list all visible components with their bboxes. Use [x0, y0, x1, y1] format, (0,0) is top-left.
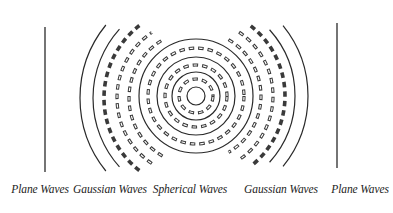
spherical-wavefront-dashed — [148, 48, 244, 144]
spherical-wavefront-solid — [139, 39, 253, 153]
label-plane-waves-left: Plane Waves — [11, 183, 69, 195]
spherical-wavefront-dashed — [165, 65, 227, 127]
label-gaussian-waves-left: Gaussian Waves — [73, 183, 147, 195]
wave-types-diagram — [0, 0, 393, 213]
spherical-wavefront-solid — [157, 57, 235, 135]
spherical-wavefront-dashed-inner — [148, 48, 244, 144]
spherical-wavefront-solid — [187, 87, 205, 105]
spherical-wavefront-dashed-inner — [179, 79, 213, 113]
label-spherical-waves: Spherical Waves — [153, 183, 227, 195]
label-plane-waves-right: Plane Waves — [331, 183, 389, 195]
label-gaussian-waves-right: Gaussian Waves — [244, 183, 318, 195]
gaussian-wave-left — [80, 25, 163, 171]
spherical-waves — [139, 39, 253, 153]
gaussian-wave-right — [229, 26, 308, 167]
